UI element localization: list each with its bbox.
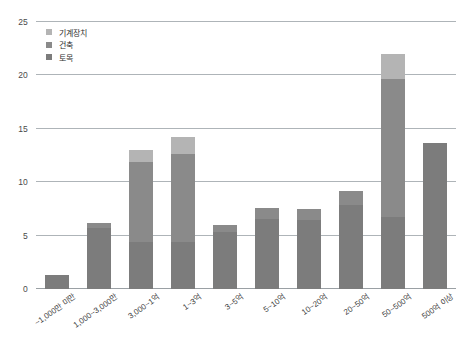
bar-segment-건축 — [129, 162, 153, 242]
legend-swatch-icon — [46, 42, 52, 48]
bar-segment-건축 — [213, 225, 237, 232]
bar-segment-건축 — [381, 79, 405, 218]
bar-segment-토목 — [381, 217, 405, 289]
legend-label: 건축 — [59, 39, 73, 50]
bar-segment-토목 — [129, 242, 153, 289]
bar-segment-토목 — [45, 275, 69, 289]
y-axis-tick-labels: 0510152025 — [0, 22, 32, 289]
legend-item-기계장치[interactable]: 기계장치 — [46, 27, 87, 38]
bar-group — [339, 22, 363, 289]
bar-segment-기계장치 — [381, 54, 405, 79]
bar-group — [381, 22, 405, 289]
legend-label: 토목 — [59, 52, 73, 63]
bar-group — [423, 22, 447, 289]
bar-segment-토목 — [213, 232, 237, 289]
bar-segment-토목 — [171, 242, 195, 289]
bar-group — [129, 22, 153, 289]
bar-segment-건축 — [255, 208, 279, 219]
legend-swatch-icon — [46, 54, 52, 60]
bar-segment-토목 — [423, 143, 447, 289]
bar-segment-건축 — [87, 223, 111, 228]
y-tick-label: 15 — [18, 124, 28, 134]
x-axis-tick-labels: ~1,000만 미만1,000~3,000만3,000~1억1~3억3~5억5~… — [36, 291, 456, 337]
bar-series-container — [36, 22, 456, 289]
bar-segment-기계장치 — [129, 150, 153, 162]
bar-group — [171, 22, 195, 289]
bar-group — [87, 22, 111, 289]
chart-legend: 기계장치건축토목 — [46, 27, 87, 65]
bar-group — [255, 22, 279, 289]
legend-swatch-icon — [46, 29, 52, 35]
legend-label: 기계장치 — [59, 27, 87, 38]
bar-segment-기계장치 — [171, 137, 195, 154]
bar-group — [213, 22, 237, 289]
bar-group — [297, 22, 321, 289]
y-tick-label: 0 — [23, 284, 28, 294]
legend-item-토목[interactable]: 토목 — [46, 52, 87, 63]
y-tick-label: 5 — [23, 231, 28, 241]
bar-segment-건축 — [339, 191, 363, 205]
bar-segment-건축 — [297, 209, 321, 220]
bar-segment-토목 — [87, 228, 111, 289]
plot-area — [36, 22, 456, 289]
bar-segment-토목 — [255, 219, 279, 289]
bar-segment-건축 — [171, 154, 195, 242]
bar-segment-토목 — [339, 205, 363, 289]
y-tick-label: 25 — [18, 17, 28, 27]
stacked-bar-chart: 0510152025 ~1,000만 미만1,000~3,000만3,000~1… — [0, 0, 468, 337]
y-tick-label: 20 — [18, 70, 28, 80]
legend-item-건축[interactable]: 건축 — [46, 40, 87, 51]
bar-segment-토목 — [297, 220, 321, 289]
y-tick-label: 10 — [18, 177, 28, 187]
